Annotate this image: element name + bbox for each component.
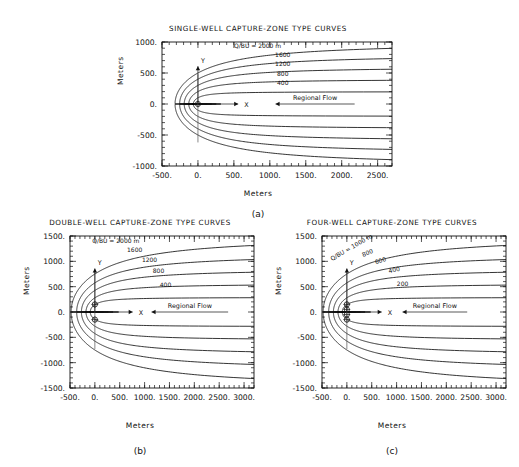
x-tick-label: 2500. xyxy=(367,171,389,180)
contour-label: Q/BU = 2000 m xyxy=(234,42,281,49)
x-tick-label: 1000. xyxy=(259,171,281,180)
contour-label: 800 xyxy=(153,267,165,274)
y-tick-label: -500. xyxy=(137,131,157,140)
contour-label: 1600 xyxy=(127,246,142,253)
y-tick-label: -1000. xyxy=(133,162,157,171)
y-tick-label: 1500. xyxy=(43,232,65,241)
svg-text:1200: 1200 xyxy=(142,256,157,263)
capture-zone-curve xyxy=(175,104,468,161)
y-arrow-label: Y xyxy=(349,259,354,267)
svg-text:600: 600 xyxy=(374,255,387,265)
x-tick-label: 0. xyxy=(194,171,201,180)
panel-a-plot: -500.0.500.1000.1500.2000.2500.1000.500.… xyxy=(108,24,408,204)
panel-c-ylabel: Meters xyxy=(274,266,283,295)
x-axis-arrow xyxy=(323,310,382,314)
regional-flow-arrow xyxy=(276,102,355,106)
y-tick-label: 500. xyxy=(48,283,65,292)
panel-four-well: FOUR-WELL CAPTURE-ZONE TYPE CURVES -500.… xyxy=(266,218,518,463)
x-tick-label: 1500. xyxy=(295,171,317,180)
y-tick-label: -1000. xyxy=(293,359,317,368)
x-tick-label: 2500. xyxy=(460,393,482,402)
svg-text:400: 400 xyxy=(388,265,401,274)
svg-text:800: 800 xyxy=(277,70,289,77)
x-tick-label: -500. xyxy=(60,393,80,402)
capture-zone-curve xyxy=(90,312,289,326)
regional-flow-label: Regional Flow xyxy=(413,302,457,310)
y-tick-label: 1000. xyxy=(135,38,157,47)
x-arrow-label: X xyxy=(244,101,249,109)
panel-b-plot: -500.0.500.1000.1500.2000.2500.3000.1500… xyxy=(14,218,266,433)
capture-zone-curve xyxy=(323,312,519,381)
contour-label: 800 xyxy=(361,247,374,258)
regional-flow-label: Regional Flow xyxy=(168,302,212,310)
y-tick-label: 500. xyxy=(140,69,157,78)
x-tick-label: -500. xyxy=(152,171,172,180)
panel-a-ylabel: Meters xyxy=(116,56,125,85)
y-tick-label: -1000. xyxy=(41,359,65,368)
y-tick-label: -500. xyxy=(45,333,65,342)
y-tick-label: 0. xyxy=(150,100,157,109)
contour-label: 400 xyxy=(388,265,401,274)
panel-c-caption: (c) xyxy=(266,446,518,456)
svg-text:Q/BU = 1000 m: Q/BU = 1000 m xyxy=(329,232,373,262)
x-arrow-label: X xyxy=(388,309,393,317)
regional-flow-label: Regional Flow xyxy=(293,94,337,102)
y-tick-label: 0. xyxy=(58,308,65,317)
panel-b-ylabel: Meters xyxy=(22,266,31,295)
contour-label: 800 xyxy=(277,70,289,77)
y-arrow-label: Y xyxy=(97,259,102,267)
y-tick-label: 500. xyxy=(300,283,317,292)
y-tick-label: -1500. xyxy=(293,384,317,393)
panel-single-well: SINGLE-WELL CAPTURE-ZONE TYPE CURVES -50… xyxy=(108,24,408,214)
x-tick-label: 500. xyxy=(111,393,128,402)
svg-text:Q/BU = 2000 m: Q/BU = 2000 m xyxy=(234,42,281,49)
contour-label: 1200 xyxy=(142,256,157,263)
panel-c-xlabel: Meters xyxy=(266,421,518,430)
y-tick-label: -500. xyxy=(297,333,317,342)
x-tick-label: 1000. xyxy=(134,393,156,402)
contour-label: 600 xyxy=(374,255,387,265)
x-tick-label: 0. xyxy=(91,393,98,402)
regional-flow-arrow xyxy=(403,310,468,314)
y-tick-label: 0. xyxy=(310,308,317,317)
x-tick-label: 2000. xyxy=(435,393,457,402)
x-tick-label: 1500. xyxy=(159,393,181,402)
panel-b-caption: (b) xyxy=(14,446,266,456)
x-tick-label: 1500. xyxy=(411,393,433,402)
capture-zone-type-curves-figure: SINGLE-WELL CAPTURE-ZONE TYPE CURVES -50… xyxy=(0,0,519,467)
y-tick-label: 1000. xyxy=(43,257,65,266)
svg-text:400: 400 xyxy=(160,281,172,288)
y-tick-label: 1500. xyxy=(295,232,317,241)
svg-text:800: 800 xyxy=(153,267,165,274)
capture-zone-curve xyxy=(184,104,457,139)
svg-text:1600: 1600 xyxy=(127,246,142,253)
capture-zone-curve xyxy=(342,312,519,326)
x-tick-label: -500. xyxy=(312,393,332,402)
panel-c-plot: -500.0.500.1000.1500.2000.2500.3000.1500… xyxy=(266,218,518,433)
svg-text:400: 400 xyxy=(277,79,289,86)
contour-label: Q/BU = 1000 m xyxy=(329,232,373,262)
svg-text:800: 800 xyxy=(361,247,374,258)
x-tick-label: 2500. xyxy=(208,393,230,402)
regional-flow-arrow xyxy=(152,310,229,314)
x-tick-label: 2000. xyxy=(331,171,353,180)
x-axis-arrow xyxy=(198,102,238,106)
y-tick-label: 1000. xyxy=(295,257,317,266)
contour-label: 1200 xyxy=(275,60,290,67)
x-tick-label: 0. xyxy=(343,393,350,402)
svg-text:200: 200 xyxy=(397,280,409,287)
x-arrow-label: X xyxy=(139,309,144,317)
svg-text:1200: 1200 xyxy=(275,60,290,67)
contour-label: 400 xyxy=(160,281,172,288)
panel-double-well: DOUBLE-WELL CAPTURE-ZONE TYPE CURVES -50… xyxy=(14,218,266,463)
panel-a-xlabel: Meters xyxy=(108,189,408,198)
capture-zone-curve xyxy=(193,104,432,116)
svg-text:1600: 1600 xyxy=(275,51,290,58)
x-tick-label: 3000. xyxy=(233,393,255,402)
x-tick-label: 500. xyxy=(363,393,380,402)
contour-label: 200 xyxy=(397,280,409,287)
x-tick-label: 1000. xyxy=(386,393,408,402)
x-tick-label: 3000. xyxy=(485,393,507,402)
contour-label: 400 xyxy=(277,79,289,86)
contour-label: Q/BU = 2000 m xyxy=(92,237,139,244)
